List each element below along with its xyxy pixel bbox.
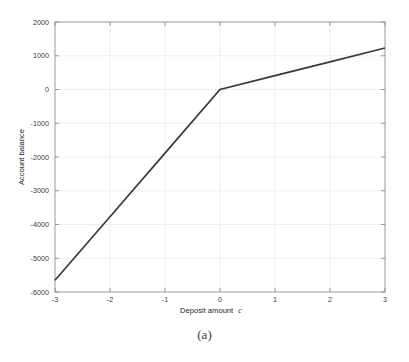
figure-caption: (a)	[0, 327, 409, 343]
x-axis-tick-labels: -3-2-10123	[52, 295, 387, 304]
x-tick-label: -2	[107, 295, 113, 304]
y-tick-label: -4000	[31, 220, 49, 229]
y-tick-label: 0	[45, 85, 49, 94]
x-tick-label: 3	[383, 295, 387, 304]
account-balance-line-chart: 200010000-1000-2000-3000-4000-5000-6000 …	[0, 0, 409, 362]
x-axis-title-text: Deposit amount	[180, 306, 234, 315]
y-tick-label: 1000	[33, 51, 49, 60]
y-tick-label: -6000	[31, 288, 49, 297]
y-tick-label: -5000	[31, 254, 49, 263]
x-axis-title-symbol: c	[238, 306, 242, 315]
y-tick-label: 2000	[33, 18, 49, 27]
figure-panel: 200010000-1000-2000-3000-4000-5000-6000 …	[0, 0, 409, 362]
x-tick-label: -3	[52, 295, 58, 304]
x-tick-label: 0	[218, 295, 222, 304]
y-tick-label: -1000	[31, 119, 49, 128]
x-tick-label: -1	[162, 295, 168, 304]
x-tick-label: 2	[328, 295, 332, 304]
y-tick-label: -3000	[31, 186, 49, 195]
y-tick-label: -2000	[31, 153, 49, 162]
x-tick-label: 1	[273, 295, 277, 304]
x-axis-title: Deposit amount c	[180, 306, 242, 315]
y-axis-tick-labels: 200010000-1000-2000-3000-4000-5000-6000	[31, 18, 49, 297]
y-axis-title: Account balance	[17, 129, 26, 185]
